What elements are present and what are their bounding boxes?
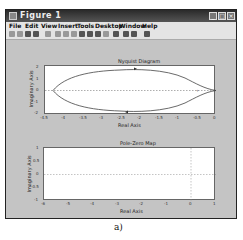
figure-window: Figure 1 _ □ × File Edit View Insert Too… [5, 9, 237, 219]
pzmap-xtick: -6 [41, 201, 45, 206]
nyquist-ylabel: Imaginary Axis [28, 70, 34, 107]
link-icon[interactable] [103, 31, 109, 37]
minimize-button[interactable]: _ [209, 12, 217, 20]
pzmap-xtick: -5 [66, 201, 70, 206]
nyquist-xtick: 0 [213, 115, 216, 120]
nyquist-xtick: -4.5 [40, 115, 48, 120]
pzmap-ytick: 0 [36, 171, 39, 176]
hide-plot-tools-icon[interactable] [131, 31, 137, 37]
rotate-icon[interactable] [79, 31, 85, 37]
brush-icon[interactable] [95, 31, 101, 37]
pzmap-xtick: 1 [213, 201, 216, 206]
nyquist-xtick: -0.5 [193, 115, 201, 120]
maximize-button[interactable]: □ [218, 12, 226, 20]
nyquist-title: Nyquist Diagram [118, 58, 160, 64]
new-file-icon[interactable] [9, 31, 15, 37]
save-icon[interactable] [25, 31, 31, 37]
nyquist-xtick: -2.5 [117, 115, 125, 120]
nyquist-xtick: -3 [99, 115, 103, 120]
pzmap-xtick: -1 [164, 201, 168, 206]
pzmap-xtick: -3 [115, 201, 119, 206]
show-plot-tools-icon[interactable] [144, 31, 150, 37]
print-icon[interactable] [33, 31, 39, 37]
pzmap-xlabel: Real Axis [120, 208, 143, 214]
pzmap-axes[interactable] [43, 147, 215, 200]
pzmap-xtick: -4 [90, 201, 94, 206]
pzmap-ylabel: Imaginary Axis [26, 155, 32, 192]
zoom-in-icon[interactable] [55, 31, 61, 37]
nyquist-ytick: 1 [36, 76, 39, 81]
nyquist-xtick: -3.5 [79, 115, 87, 120]
nyquist-xtick: -4 [61, 115, 65, 120]
pan-icon[interactable] [71, 31, 77, 37]
close-button[interactable]: × [227, 12, 235, 20]
pzmap-xtick: -2 [139, 201, 143, 206]
legend-icon[interactable] [123, 31, 129, 37]
toolbar [6, 30, 236, 40]
nyquist-xtick: -1 [175, 115, 179, 120]
nyquist-ytick: -2 [34, 110, 38, 115]
pzmap-ytick: -0.5 [31, 184, 39, 189]
colorbar-icon[interactable] [113, 31, 119, 37]
menu-insert[interactable]: Insert [58, 22, 78, 30]
data-cursor-icon[interactable] [87, 31, 93, 37]
pzmap-ytick: -1 [34, 197, 38, 202]
nyquist-xtick: -1.5 [155, 115, 163, 120]
nyquist-xtick: -2 [137, 115, 141, 120]
pzmap-title: Pole-Zero Map [120, 140, 156, 146]
nyquist-ytick: -1 [34, 99, 38, 104]
nyquist-ytick: 0 [36, 87, 39, 92]
nyquist-curve: + [45, 66, 216, 115]
window-title: Figure 1 [20, 11, 61, 20]
menu-view[interactable]: View [41, 22, 57, 30]
menu-file[interactable]: File [9, 22, 21, 30]
nyquist-xlabel: Real Axis [118, 122, 141, 128]
menu-edit[interactable]: Edit [25, 22, 38, 30]
figure-canvas: Nyquist Diagram + 2 1 0 -1 -2 -4.5 -4 -3… [6, 40, 236, 218]
pzmap-ytick: 1 [36, 145, 39, 150]
open-icon[interactable] [17, 31, 23, 37]
matlab-figure-icon [9, 12, 17, 20]
pzmap-gridlines [44, 148, 216, 201]
menu-bar: File Edit View Insert Tools Desktop Wind… [6, 22, 236, 30]
zoom-out-icon[interactable] [63, 31, 69, 37]
title-bar[interactable]: Figure 1 _ □ × [6, 10, 236, 22]
nyquist-ytick: 2 [36, 64, 39, 69]
figure-caption: a) [114, 222, 123, 232]
pzmap-ytick: 0.5 [33, 158, 39, 163]
pzmap-xtick: 0 [189, 201, 192, 206]
menu-help[interactable]: Help [142, 22, 157, 30]
pointer-icon[interactable] [45, 31, 51, 37]
svg-text:+: + [196, 89, 199, 93]
menu-tools[interactable]: Tools [77, 22, 94, 30]
nyquist-axes[interactable]: + [44, 65, 215, 114]
